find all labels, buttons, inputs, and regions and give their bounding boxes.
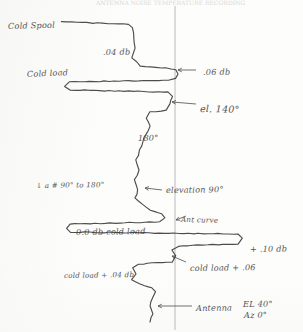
annotation-antenna-pointing: Antenna	[196, 303, 232, 312]
annotation-cold-load-04db: cold load + .04 db	[64, 271, 134, 280]
annotation-cold-spool: Cold Spool	[8, 21, 55, 31]
annotation-antenna-el: EL 40°	[243, 300, 273, 309]
chart-trace-layer	[0, 0, 303, 332]
annotation-el-140: el. 140°	[200, 104, 240, 115]
annotation-angle-180: 180°	[138, 134, 159, 143]
annotation-antenna-az: Az 0°	[244, 311, 267, 320]
chart-recording-page: ANTENNA NOISE TEMPERATURE RECORDING Cold…	[0, 0, 303, 332]
annotation-elevation-90: elevation 90°	[166, 185, 224, 194]
annotation-ant-curve: Ant curve	[181, 216, 218, 224]
annotation-cold-load-06: cold load + .06	[190, 263, 256, 273]
annotation-level-04db: .04 db	[103, 48, 130, 57]
annotation-cold-load-upper: Cold load	[27, 68, 68, 78]
chart-svg	[0, 0, 303, 332]
annotation-level-10db: + .10 db	[250, 244, 287, 253]
annotation-sweep-note: ↓ a # 90° to 180°	[36, 181, 105, 190]
annotation-level-06db: .06 db	[203, 68, 230, 77]
annotation-zero-db-cold-load: 0.0 db cold load	[76, 227, 146, 237]
